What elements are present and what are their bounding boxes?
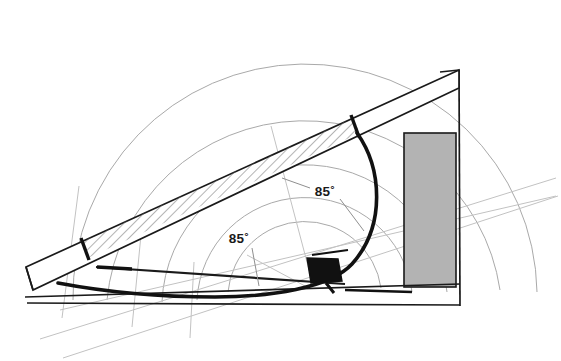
leader-line-right [340,199,364,231]
motor-body [307,258,342,283]
lower-rod-thick-end [97,267,132,269]
leader-line-left [252,248,259,286]
guide-line-lower-beam-top [40,178,556,339]
hatched-diagonal-beam [26,70,459,290]
lower-rod [96,267,412,292]
lower-rod-extension [345,290,412,292]
guide-line-vertical-mid [132,235,141,327]
vertical-wall [459,70,460,306]
angle-label-right: 85˚ [315,184,335,199]
lower-rod-line [96,267,345,284]
angle-label-left: 85˚ [229,231,249,246]
wedge-lower-chord-bottom [27,303,460,305]
technical-diagram: 85˚ 85˚ [0,0,561,361]
gray-panel [404,133,456,287]
guide-arc-outer [73,64,537,300]
diagram-canvas: 85˚ 85˚ [0,0,561,361]
concentric-guide-arcs [73,64,537,302]
